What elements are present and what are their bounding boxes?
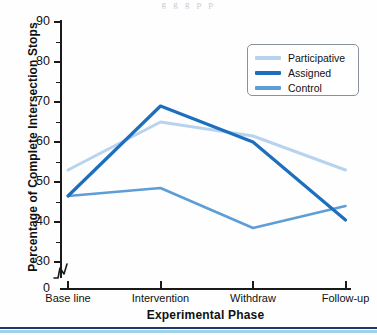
legend-item-participative: Participative [255, 50, 352, 65]
legend-item-control: Control [255, 80, 352, 95]
series-line-assigned [68, 106, 346, 220]
series-line-control [68, 188, 346, 228]
legend-box: Participative Assigned Control [247, 44, 359, 96]
legend-swatch-assigned [255, 71, 281, 75]
legend-swatch-control [255, 86, 281, 90]
footer-rule-light [0, 330, 377, 333]
series-line-participative [68, 122, 346, 170]
legend-item-assigned: Assigned [255, 65, 352, 80]
legend-label-participative: Participative [288, 52, 345, 64]
figure-container: g g g p p 30405060708090 0 Base lineInte… [0, 0, 377, 335]
legend-label-control: Control [288, 82, 322, 94]
legend-swatch-participative [255, 56, 281, 60]
footer-rule-dark [0, 327, 377, 329]
legend-label-assigned: Assigned [288, 67, 331, 79]
